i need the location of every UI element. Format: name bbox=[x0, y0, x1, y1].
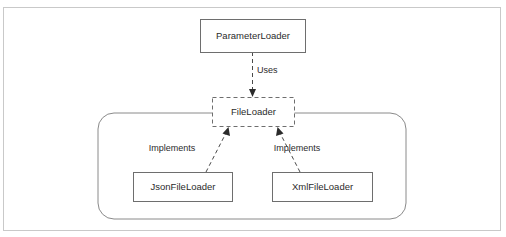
uml-class-diagram: Uses Implements Implements ParameterLoad… bbox=[0, 0, 506, 237]
class-node-file-loader-label: FileLoader bbox=[231, 106, 276, 117]
class-node-file-loader[interactable]: FileLoader bbox=[213, 98, 295, 127]
class-node-parameter-loader-label: ParameterLoader bbox=[216, 30, 290, 41]
class-node-json-file-loader-label: JsonFileLoader bbox=[151, 181, 216, 192]
class-node-parameter-loader[interactable]: ParameterLoader bbox=[201, 20, 306, 53]
implements-edge-xml-label: Implements bbox=[274, 143, 321, 153]
uses-edge-label: Uses bbox=[257, 65, 278, 75]
implements-edge-json-label: Implements bbox=[149, 143, 196, 153]
class-node-xml-file-loader[interactable]: XmlFileLoader bbox=[273, 173, 373, 202]
diagram-canvas: Uses Implements Implements ParameterLoad… bbox=[0, 0, 506, 237]
class-node-xml-file-loader-label: XmlFileLoader bbox=[292, 181, 353, 192]
class-node-json-file-loader[interactable]: JsonFileLoader bbox=[134, 173, 233, 202]
